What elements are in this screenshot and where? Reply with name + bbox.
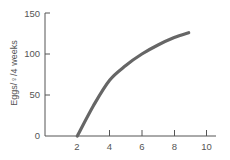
y-tick-label: 150 — [24, 8, 40, 19]
y-axis-label: Eggs/♀/4 weeks — [9, 40, 19, 106]
y-ticks — [45, 13, 50, 95]
x-tick-label: 2 — [74, 141, 79, 152]
x-tick-label: 10 — [201, 141, 212, 152]
x-ticks — [110, 130, 207, 136]
y-tick-label: 100 — [24, 48, 40, 59]
x-tick-label: 4 — [107, 141, 112, 152]
chart: 150 100 50 0 2 4 6 8 10 Eggs/♀/4 weeks — [0, 0, 230, 160]
x-tick-label: 6 — [139, 141, 144, 152]
y-tick-label: 50 — [29, 89, 40, 100]
data-curve — [77, 33, 188, 136]
x-tick-label: 8 — [172, 141, 177, 152]
y-tick-label: 0 — [35, 130, 40, 141]
x-tick-labels: 2 4 6 8 10 — [74, 141, 211, 152]
y-tick-labels: 150 100 50 0 — [24, 8, 40, 141]
